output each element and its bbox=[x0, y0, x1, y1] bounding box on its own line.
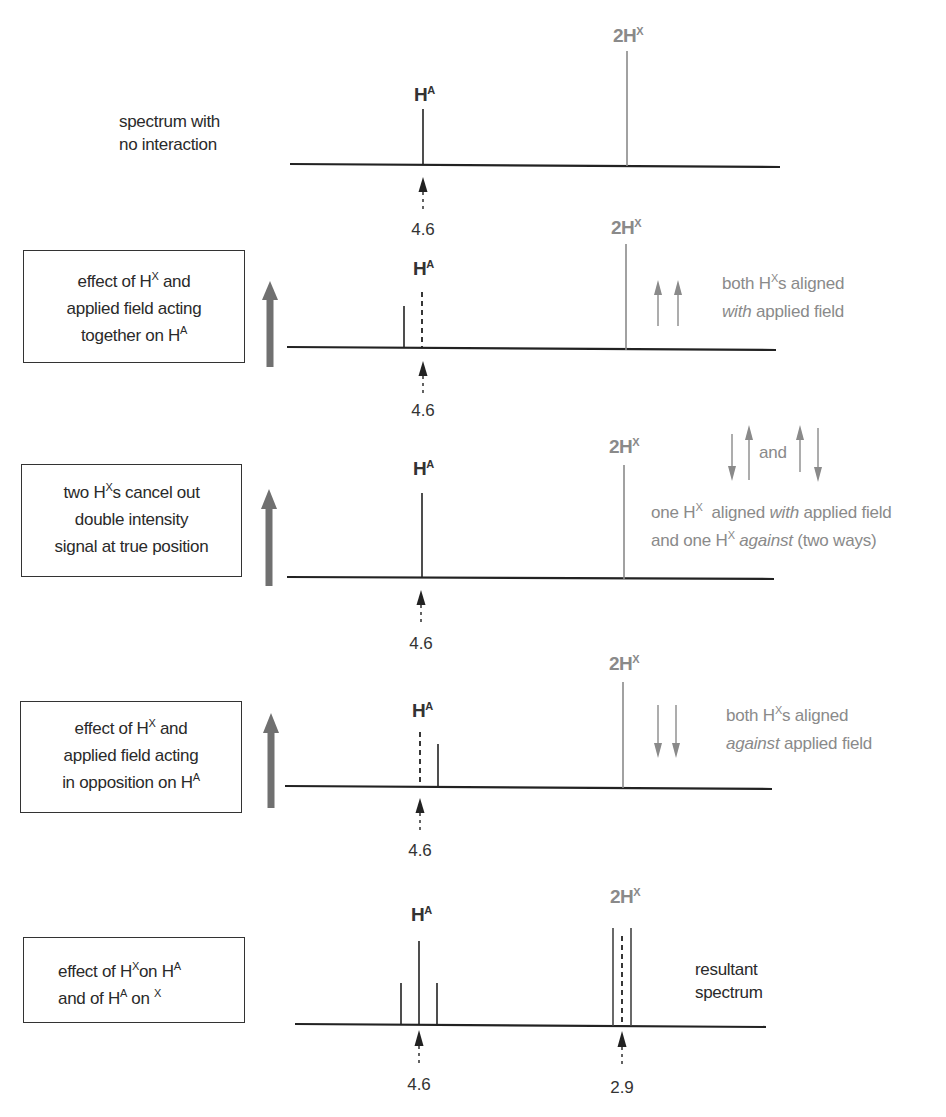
baseline bbox=[287, 347, 776, 350]
caption-line: spectrum with bbox=[119, 110, 220, 133]
shift-value-ha: 4.6 bbox=[401, 634, 441, 654]
note-line: against applied field bbox=[726, 730, 872, 758]
box-line: double intensity bbox=[22, 506, 241, 533]
panel-3-box: two HXs cancel out double intensity sign… bbox=[21, 464, 242, 577]
panel-4-box: effect of HX and applied field acting in… bbox=[20, 701, 242, 813]
spin-up-arrows-icon bbox=[654, 280, 682, 326]
panel-4-note: both HXs aligned against applied field bbox=[726, 702, 872, 758]
box-line: applied field acting bbox=[21, 742, 241, 769]
panel-3-note: one HX aligned with applied field and on… bbox=[651, 499, 892, 555]
baseline bbox=[285, 786, 772, 789]
shift-value-ha: 4.6 bbox=[403, 401, 443, 421]
shift-arrow-icon bbox=[416, 798, 425, 832]
baseline bbox=[295, 1024, 766, 1027]
ha-peak-label: HA bbox=[413, 258, 434, 280]
box-line: effect of HX and bbox=[24, 268, 244, 295]
and-label: and bbox=[759, 439, 787, 467]
hx-peak-label: 2HX bbox=[611, 217, 641, 239]
applied-field-arrow-icon bbox=[261, 489, 277, 586]
box-text: effect of HX and applied field acting in… bbox=[21, 715, 241, 796]
hx-peak-label: 2HX bbox=[609, 653, 639, 675]
note-line: and one HX against (two ways) bbox=[651, 527, 892, 555]
box-text: two HXs cancel out double intensity sign… bbox=[22, 479, 241, 560]
box-line: in opposition on HA bbox=[21, 769, 241, 796]
panel-5-box: effect of HXon HA and of HA on X bbox=[23, 937, 245, 1023]
note-line: both HXs aligned bbox=[726, 702, 872, 730]
shift-arrow-icon bbox=[417, 590, 426, 624]
shift-value-ha: 4.6 bbox=[400, 841, 440, 861]
panel-5-caption: resultant spectrum bbox=[695, 958, 763, 1004]
note-line: with applied field bbox=[722, 298, 844, 326]
box-line: effect of HX and bbox=[21, 715, 241, 742]
panel-1-spectrum bbox=[290, 51, 780, 212]
applied-field-arrow-icon bbox=[263, 713, 279, 808]
hx-peak-label: 2HX bbox=[613, 25, 643, 47]
shift-arrow-icon bbox=[419, 177, 428, 212]
box-line: and of HA on X bbox=[58, 985, 244, 1012]
panel-2-spectrum bbox=[262, 244, 776, 395]
caption-line: no interaction bbox=[119, 133, 220, 156]
shift-arrow-icon bbox=[419, 361, 428, 395]
panel-2-box: effect of HX and applied field acting to… bbox=[23, 250, 245, 363]
spin-down-arrows-icon bbox=[654, 705, 680, 758]
panel-2-note: both HXs aligned with applied field bbox=[722, 270, 844, 326]
baseline bbox=[287, 577, 774, 579]
box-line: two HXs cancel out bbox=[22, 479, 241, 506]
shift-arrow-icon bbox=[415, 1030, 424, 1066]
box-text: effect of HXon HA and of HA on X bbox=[58, 958, 244, 1012]
shift-arrow-icon bbox=[618, 1031, 627, 1068]
ha-peak-label: HA bbox=[412, 700, 433, 722]
note-line: both HXs aligned bbox=[722, 270, 844, 298]
box-line: effect of HXon HA bbox=[58, 958, 244, 985]
shift-value-ha: 4.6 bbox=[403, 220, 443, 240]
panel-1-caption: spectrum with no interaction bbox=[119, 110, 220, 156]
caption-line: resultant bbox=[695, 958, 763, 981]
box-line: applied field acting bbox=[24, 295, 244, 322]
caption-line: spectrum bbox=[695, 981, 763, 1004]
ha-peak-label: HA bbox=[414, 84, 435, 106]
panel-4-spectrum bbox=[263, 682, 772, 832]
box-line: together on HA bbox=[24, 322, 244, 349]
shift-value-ha: 4.6 bbox=[399, 1075, 439, 1095]
ha-peak-label: HA bbox=[413, 458, 434, 480]
hx-peak-label: 2HX bbox=[609, 436, 639, 458]
box-line: signal at true position bbox=[22, 533, 241, 560]
box-text: effect of HX and applied field acting to… bbox=[24, 268, 244, 349]
shift-value-hx: 2.9 bbox=[602, 1078, 642, 1098]
ha-peak-label: HA bbox=[411, 904, 432, 926]
hx-peak-label: 2HX bbox=[610, 886, 640, 908]
note-line: one HX aligned with applied field bbox=[651, 499, 892, 527]
applied-field-arrow-icon bbox=[262, 281, 278, 367]
baseline bbox=[290, 164, 780, 167]
